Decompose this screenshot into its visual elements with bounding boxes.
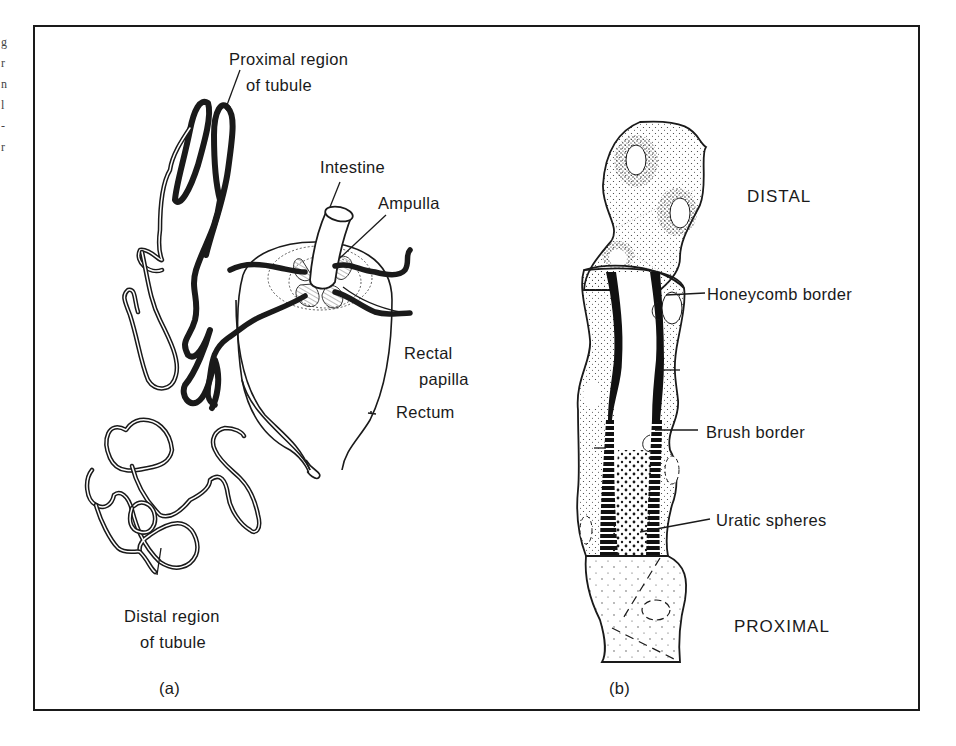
label-brush-border: Brush border	[706, 421, 805, 443]
label-uratic-spheres: Uratic spheres	[716, 509, 827, 531]
caption-panel-a: (a)	[159, 677, 180, 699]
label-ampulla: Ampulla	[378, 192, 440, 214]
panel-a-tubule-distal	[87, 420, 259, 572]
label-rectal-papilla-line2: papilla	[419, 368, 469, 390]
label-rectum: Rectum	[396, 401, 455, 423]
caption-panel-b: (b)	[609, 677, 630, 699]
label-proximal-region-line2: of tubule	[246, 74, 312, 96]
label-distal: DISTAL	[747, 186, 811, 208]
label-honeycomb-border: Honeycomb border	[707, 283, 852, 305]
label-proximal: PROXIMAL	[734, 616, 830, 638]
label-rectal-papilla-line1: Rectal	[404, 342, 453, 364]
label-distal-region-line1: Distal region	[124, 605, 220, 627]
label-proximal-region-line1: Proximal region	[229, 48, 348, 70]
label-intestine: Intestine	[320, 156, 385, 178]
label-distal-region-line2: of tubule	[140, 631, 206, 653]
panel-b-cell-column	[577, 122, 706, 662]
panel-a-tubule-proximal	[175, 102, 233, 408]
